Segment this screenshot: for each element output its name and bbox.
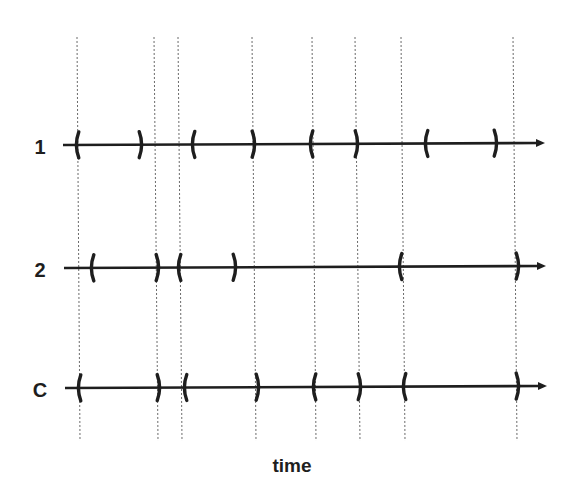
time-axis-line	[64, 266, 540, 268]
row-label: C	[33, 379, 47, 401]
timeline-rows: 12C	[33, 130, 547, 401]
vertical-guide-lines	[77, 37, 517, 441]
interval-timeline-diagram: 12C time	[0, 0, 575, 504]
row-label: 1	[34, 136, 45, 158]
timeline-row-c: C	[33, 373, 547, 401]
time-axis-line	[65, 386, 541, 388]
x-axis-label: time	[272, 455, 311, 476]
time-axis-line	[63, 143, 539, 145]
guide-line	[178, 37, 182, 441]
arrow-head-icon	[537, 262, 546, 270]
timeline-row-1: 1	[34, 130, 545, 158]
guide-line	[252, 37, 256, 441]
arrow-head-icon	[538, 382, 547, 390]
row-label: 2	[34, 259, 45, 281]
diagram-canvas: 12C time	[0, 0, 575, 504]
arrow-head-icon	[536, 139, 545, 147]
timeline-row-2: 2	[34, 253, 546, 281]
guide-line	[513, 37, 517, 441]
